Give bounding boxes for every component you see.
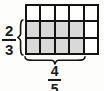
- grid-cell: [27, 39, 39, 53]
- left-brace-icon: [17, 19, 24, 56]
- grid-cell: [56, 39, 68, 53]
- grid-cell: [41, 39, 53, 53]
- grid-cell: [85, 22, 97, 36]
- grid-cell: [70, 6, 82, 20]
- left-fraction-denominator: 3: [5, 42, 13, 57]
- grid-cell: [41, 22, 53, 36]
- grid-cell: [85, 6, 97, 20]
- grid-cell: [56, 6, 68, 20]
- grid-cell: [70, 22, 82, 36]
- grid-cell: [85, 39, 97, 53]
- left-fraction-numerator: 2: [5, 23, 13, 38]
- grid-cell: [70, 39, 82, 53]
- grid-cell: [27, 6, 39, 20]
- bottom-fraction-label: 4 5: [48, 64, 61, 91]
- grid-cell: [56, 22, 68, 36]
- fraction-area-model-figure: 2 3 4 5: [0, 0, 104, 91]
- fraction-grid: [25, 4, 99, 55]
- bottom-fraction-numerator: 4: [51, 64, 59, 78]
- left-fraction-label: 2 3: [2, 23, 16, 57]
- grid-cell: [27, 22, 39, 36]
- grid-cell: [41, 6, 53, 20]
- bottom-fraction-denominator: 5: [51, 82, 59, 91]
